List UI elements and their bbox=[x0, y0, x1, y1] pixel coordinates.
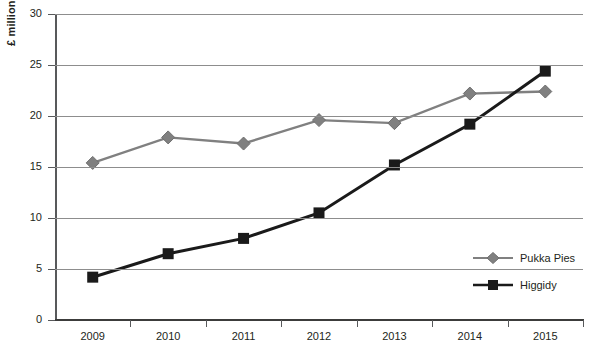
legend-marker-square-icon bbox=[472, 278, 514, 292]
legend-item-pukka-pies: Pukka Pies bbox=[472, 248, 575, 268]
data-point-marker bbox=[237, 137, 250, 150]
data-point-marker bbox=[388, 117, 401, 130]
y-axis-tick-label: 0 bbox=[36, 314, 42, 325]
series-line bbox=[93, 71, 546, 277]
gridline bbox=[55, 14, 583, 15]
data-point-marker bbox=[162, 131, 175, 144]
x-axis-tick-label: 2015 bbox=[515, 330, 575, 342]
x-axis-tick bbox=[357, 320, 358, 327]
x-axis-tick bbox=[206, 320, 207, 327]
gridline bbox=[55, 65, 583, 66]
x-axis-tick-label: 2012 bbox=[289, 330, 349, 342]
gridline bbox=[55, 167, 583, 168]
y-axis-tick-label: 10 bbox=[30, 212, 42, 223]
data-point-marker bbox=[238, 233, 249, 244]
legend: Pukka Pies Higgidy bbox=[472, 248, 592, 296]
data-point-marker bbox=[163, 248, 174, 259]
x-axis-tick bbox=[130, 320, 131, 327]
y-axis-tick bbox=[48, 65, 55, 66]
series-pukka-pies bbox=[86, 85, 552, 169]
legend-label-pukka-pies: Pukka Pies bbox=[520, 252, 575, 264]
x-axis-tick-label: 2009 bbox=[63, 330, 123, 342]
x-axis-tick bbox=[583, 320, 584, 327]
y-axis-tick-labels: 051015202530 bbox=[0, 14, 50, 320]
x-axis-tick-label: 2011 bbox=[214, 330, 274, 342]
y-axis-tick bbox=[48, 269, 55, 270]
y-axis-tick bbox=[48, 320, 55, 321]
y-axis-tick-label: 15 bbox=[30, 161, 42, 172]
data-point-marker bbox=[314, 207, 325, 218]
x-axis-tick-labels: 2009201020112012201320142015 bbox=[55, 330, 584, 350]
y-axis-tick-label: 5 bbox=[36, 263, 42, 274]
x-axis-tick bbox=[281, 320, 282, 327]
legend-item-higgidy: Higgidy bbox=[472, 275, 557, 295]
y-axis-tick bbox=[48, 116, 55, 117]
x-axis-tick-label: 2013 bbox=[364, 330, 424, 342]
gridline bbox=[55, 116, 583, 117]
data-point-marker bbox=[463, 87, 476, 100]
y-axis-tick bbox=[48, 218, 55, 219]
legend-marker-diamond-icon bbox=[472, 251, 514, 265]
y-axis-tick bbox=[48, 167, 55, 168]
line-chart: £ millions 051015202530 2009201020112012… bbox=[0, 0, 599, 359]
x-axis-tick-label: 2014 bbox=[440, 330, 500, 342]
legend-label-higgidy: Higgidy bbox=[520, 279, 557, 291]
data-point-marker bbox=[389, 159, 400, 170]
y-axis-tick-label: 25 bbox=[30, 59, 42, 70]
x-axis-tick bbox=[432, 320, 433, 327]
y-axis-tick bbox=[48, 14, 55, 15]
x-axis-tick bbox=[508, 320, 509, 327]
y-axis-tick-label: 30 bbox=[30, 8, 42, 19]
y-axis-tick-label: 20 bbox=[30, 110, 42, 121]
data-point-marker bbox=[87, 272, 98, 283]
gridline bbox=[55, 218, 583, 219]
x-axis-tick-label: 2010 bbox=[138, 330, 198, 342]
data-point-marker bbox=[540, 66, 551, 77]
data-point-marker bbox=[464, 119, 475, 130]
data-point-marker bbox=[539, 85, 552, 98]
